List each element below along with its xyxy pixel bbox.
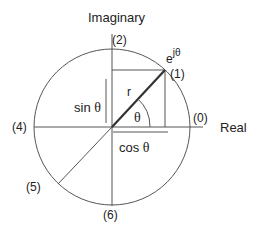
point-label-2: (2) <box>112 33 127 47</box>
point-label-1: (1) <box>170 67 185 81</box>
sin-function: sin <box>74 100 91 115</box>
point-label-0: (0) <box>193 111 208 125</box>
cos-function: cos <box>119 140 140 155</box>
imaginary-axis-label: Imaginary <box>88 10 146 25</box>
phasor-exponent: jθ <box>172 47 181 58</box>
angle-label: θ <box>134 110 141 125</box>
diameter-extension-line <box>58 127 112 184</box>
cos-label: cos θ <box>119 140 150 155</box>
unit-circle-diagram: Imaginary Real (2) (1) (0) (4) (5) (6) e… <box>0 0 262 232</box>
point-label-4: (4) <box>12 120 27 134</box>
point-label-5: (5) <box>26 180 41 194</box>
sin-label: sin θ <box>74 100 101 115</box>
sin-argument: θ <box>94 100 101 115</box>
phasor-label: ejθ <box>166 47 181 66</box>
radius-label: r <box>127 85 131 99</box>
cos-argument: θ <box>143 140 150 155</box>
real-axis-label: Real <box>220 120 247 135</box>
point-label-6: (6) <box>103 208 118 222</box>
